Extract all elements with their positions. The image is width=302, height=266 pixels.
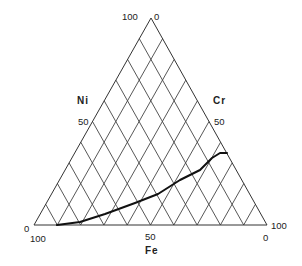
right-label-50: 50	[214, 117, 225, 127]
bottom-right-label-100: 100	[271, 221, 287, 231]
bottom-left-label-0: 0	[24, 224, 29, 234]
axis-name-cr: Cr	[213, 96, 226, 106]
axis-name-fe: Fe	[145, 246, 159, 256]
top-label-100: 100	[122, 12, 138, 22]
left-label-50: 50	[78, 117, 89, 127]
top-label-0: 0	[154, 12, 159, 22]
bottom-label-50: 50	[145, 232, 156, 242]
bottom-right-label-0: 0	[263, 233, 268, 243]
axis-name-ni: Ni	[77, 96, 89, 106]
bottom-left-label-100: 100	[30, 234, 46, 244]
ternary-diagram	[0, 0, 302, 266]
triangle-frame	[34, 18, 267, 225]
boundary-curve	[57, 153, 227, 225]
